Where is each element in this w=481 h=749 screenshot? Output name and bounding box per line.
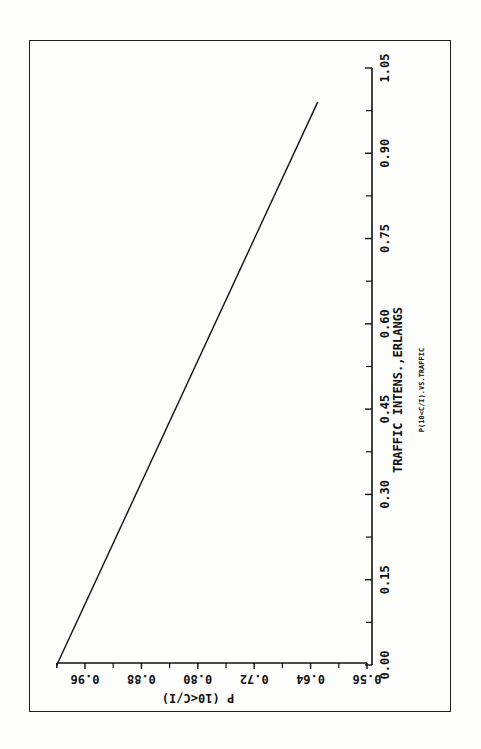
x-tick-label: 0.15 [378, 565, 392, 594]
y-tick-label: 0.88 [127, 672, 156, 686]
x-tick-label: 0.60 [378, 309, 392, 338]
line-chart: 0.000.150.300.450.600.750.901.05 0.560.6… [0, 0, 481, 749]
x-tick-label: 0.90 [378, 139, 392, 168]
y-tick-label: 0.64 [296, 672, 325, 686]
x-tick-label: 0.45 [378, 395, 392, 424]
series-line [57, 102, 318, 665]
y-axis-title: P (10<C/I) [162, 691, 234, 705]
x-tick-label: 0.30 [378, 480, 392, 509]
chart-caption: P(10<C/I).VS.TRAFFIC [418, 348, 426, 432]
x-tick-label: 0.75 [378, 224, 392, 253]
y-tick-label: 0.56 [353, 672, 382, 686]
x-axis-traffic: 0.000.150.300.450.600.750.901.05 [365, 54, 392, 680]
x-tick-label: 1.05 [378, 54, 392, 83]
y-tick-label: 0.96 [71, 672, 100, 686]
y-tick-label: 0.72 [240, 672, 269, 686]
data-series [57, 102, 318, 665]
y-tick-label: 0.80 [183, 672, 212, 686]
y-axis-probability: 0.560.640.720.800.880.96 [57, 663, 382, 686]
x-axis-title: TRAFFIC INTENS.,ERLANGS [391, 307, 405, 473]
